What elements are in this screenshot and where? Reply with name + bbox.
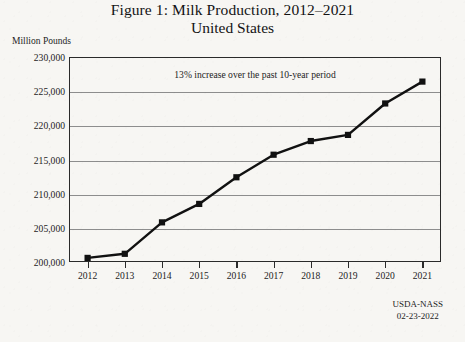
x-axis-tick <box>199 262 200 268</box>
data-point-marker <box>85 255 91 261</box>
chart-annotation: 13% increase over the past 10-year perio… <box>174 69 335 80</box>
x-axis-tick-label: 2021 <box>413 270 432 281</box>
series-polyline <box>88 82 423 258</box>
data-point-marker <box>159 219 165 225</box>
x-axis-tick <box>88 262 89 268</box>
data-point-marker <box>345 132 351 138</box>
data-point-marker <box>382 100 388 106</box>
y-axis-tick-label: 225,000 <box>9 86 65 97</box>
x-axis-tick-label: 2012 <box>78 270 97 281</box>
x-axis-tick-label: 2015 <box>190 270 209 281</box>
x-axis-tick-label: 2014 <box>152 270 171 281</box>
source-agency: USDA-NASS <box>392 299 443 311</box>
y-axis-tick-label: 200,000 <box>9 257 65 268</box>
x-axis-tick-label: 2020 <box>376 270 395 281</box>
x-axis-tick-label: 2016 <box>227 270 246 281</box>
y-axis-tick-label: 220,000 <box>9 120 65 131</box>
data-point-marker <box>308 138 314 144</box>
y-axis-tick-label: 230,000 <box>9 52 65 63</box>
data-point-marker <box>196 201 202 207</box>
figure-title-line-2: United States <box>0 19 465 37</box>
data-point-marker <box>271 152 277 158</box>
source-credit: USDA-NASS 02-23-2022 <box>392 299 443 322</box>
x-axis-ticks <box>69 262 441 269</box>
x-axis-tick-label: 2018 <box>301 270 320 281</box>
figure-milk-production: Figure 1: Milk Production, 2012–2021 Uni… <box>0 0 465 342</box>
x-axis-tick <box>385 262 386 268</box>
x-axis-tick <box>162 262 163 268</box>
x-axis-tick <box>125 262 126 268</box>
x-axis-tick-labels: 2012201320142015201620172018201920202021 <box>69 270 441 286</box>
y-axis-unit-label: Million Pounds <box>12 36 71 46</box>
y-axis-tick-label: 215,000 <box>9 154 65 165</box>
source-date: 02-23-2022 <box>392 311 443 323</box>
x-axis-tick-label: 2019 <box>338 270 357 281</box>
y-axis-tick-labels: 200,000205,000210,000215,000220,000225,0… <box>5 57 65 262</box>
figure-title: Figure 1: Milk Production, 2012–2021 Uni… <box>0 1 465 37</box>
x-axis-tick-label: 2013 <box>115 270 134 281</box>
x-axis-tick <box>422 262 423 268</box>
x-axis-tick <box>311 262 312 268</box>
x-axis-tick <box>236 262 237 268</box>
data-point-marker <box>233 174 239 180</box>
y-axis-tick-label: 205,000 <box>9 222 65 233</box>
data-point-marker <box>419 79 425 85</box>
data-series-line <box>69 57 441 262</box>
data-point-marker <box>122 251 128 257</box>
y-axis-tick-label: 210,000 <box>9 188 65 199</box>
x-axis-tick <box>348 262 349 268</box>
x-axis-tick-label: 2017 <box>264 270 283 281</box>
x-axis-tick <box>274 262 275 268</box>
figure-title-line-1: Figure 1: Milk Production, 2012–2021 <box>0 1 465 19</box>
